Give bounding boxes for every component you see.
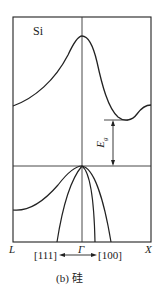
valence-band-left-curve [13, 166, 82, 210]
arrow-right-icon [91, 253, 97, 257]
k-point-L: L [9, 244, 15, 255]
light-hole-band-left [57, 166, 82, 242]
direction-100-label: [100] [98, 250, 122, 261]
arrow-head-down-icon [111, 160, 115, 166]
arrow-head-up-icon [111, 120, 115, 126]
material-label: Si [33, 25, 43, 37]
k-point-X: X [145, 244, 152, 255]
direction-111-label: [111] [34, 250, 57, 261]
figure-caption: (b) 硅 [56, 273, 83, 284]
k-point-gamma: Γ [78, 244, 84, 255]
heavy-hole-band-right [82, 166, 111, 242]
arrow-left-icon [59, 253, 65, 257]
band-gap-label: Eg [94, 137, 109, 147]
